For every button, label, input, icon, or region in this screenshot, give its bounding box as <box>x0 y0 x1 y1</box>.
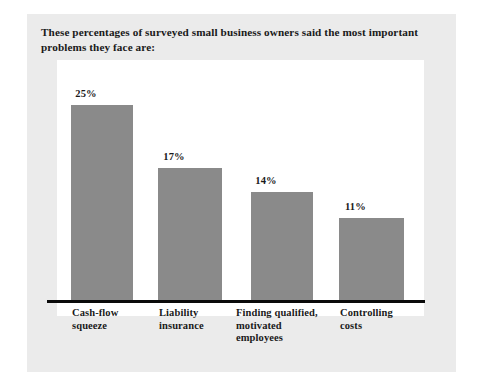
bar-value-label: 25% <box>55 88 117 99</box>
bar-controlling-costs <box>339 218 404 300</box>
bar-liability-insurance <box>158 168 222 300</box>
category-label-finding-qualified-motivated-employees: Finding qualified, motivated employees <box>236 307 341 345</box>
bar-finding-qualified-motivated-employees <box>251 192 313 300</box>
bar-value-label: 14% <box>235 175 297 186</box>
category-label-cash-flow-squeeze: Cash-flow squeeze <box>72 307 157 332</box>
bar-cash-flow-squeeze <box>71 105 133 300</box>
figure-panel: These percentages of surveyed small busi… <box>27 14 456 372</box>
chart-title: These percentages of surveyed small busi… <box>41 25 421 54</box>
bar-value-label: 17% <box>142 151 206 162</box>
category-label-controlling-costs: Controlling costs <box>340 307 430 332</box>
x-axis-line <box>47 300 425 303</box>
bar-value-label: 11% <box>323 201 388 212</box>
category-label-liability-insurance: Liability insurance <box>159 307 244 332</box>
